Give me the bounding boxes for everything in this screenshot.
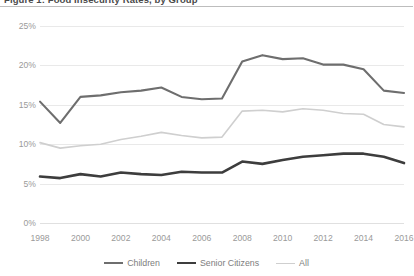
y-tick-label-0: 0% — [2, 218, 36, 228]
x-tick-label-2002: 2002 — [111, 233, 130, 243]
y-tick-label-20: 20% — [2, 60, 36, 70]
x-tick-label-1998: 1998 — [30, 233, 49, 243]
legend-swatch-icon — [276, 263, 295, 264]
plot-area — [40, 26, 404, 223]
y-axis-labels: 0%5%10%15%20%25% — [0, 26, 36, 223]
figure-title: Figure 1: Food Insecurity Rates, by Grou… — [4, 0, 198, 5]
x-tick-label-2008: 2008 — [233, 233, 252, 243]
legend-item-all[interactable]: All — [276, 258, 309, 268]
y-tick-label-10: 10% — [2, 139, 36, 149]
legend-label: All — [299, 258, 309, 268]
x-tick-label-2006: 2006 — [192, 233, 211, 243]
series-lines — [40, 26, 404, 223]
legend-swatch-icon — [177, 262, 196, 264]
legend-item-children[interactable]: Children — [104, 258, 160, 268]
x-tick-label-2000: 2000 — [71, 233, 90, 243]
legend-label: Children — [127, 258, 160, 268]
x-tick-label-2012: 2012 — [314, 233, 333, 243]
y-tick-label-15: 15% — [2, 100, 36, 110]
title-divider — [0, 6, 413, 7]
legend-label: Senior Citizens — [200, 258, 259, 268]
x-tick-label-2004: 2004 — [152, 233, 171, 243]
chart-legend: ChildrenSenior CitizensAll — [0, 258, 413, 268]
y-tick-label-5: 5% — [2, 179, 36, 189]
x-tick-label-2010: 2010 — [273, 233, 292, 243]
x-tick-label-2016: 2016 — [394, 233, 413, 243]
y-tick-label-25: 25% — [2, 21, 36, 31]
legend-swatch-icon — [104, 262, 123, 264]
line-senior-citizens — [40, 154, 404, 178]
line-children — [40, 55, 404, 123]
legend-item-senior-citizens[interactable]: Senior Citizens — [177, 258, 259, 268]
line-all — [40, 109, 404, 148]
gridline-0 — [40, 223, 404, 224]
x-tick-label-2014: 2014 — [354, 233, 373, 243]
